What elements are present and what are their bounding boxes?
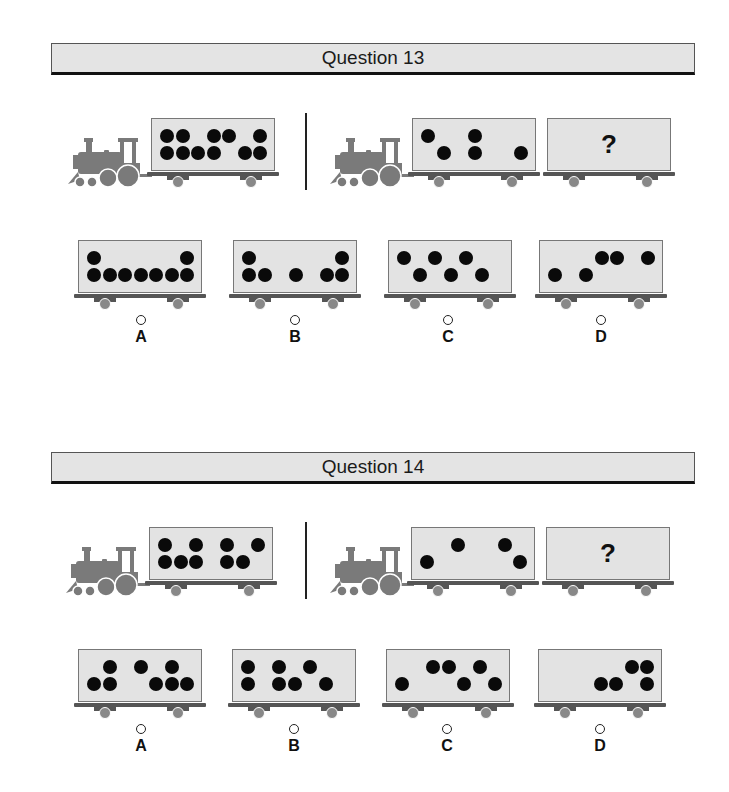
radio-button[interactable]: [290, 315, 300, 325]
option-label: A: [131, 328, 151, 346]
dot: [335, 251, 349, 265]
option-car-a[interactable]: [74, 649, 204, 715]
dot: [272, 660, 286, 674]
car-body: [149, 527, 273, 580]
option-d[interactable]: D: [591, 315, 611, 346]
dot: [165, 268, 179, 282]
radio-button[interactable]: [289, 724, 299, 734]
wheel-icon: [506, 176, 518, 188]
dot: [395, 677, 409, 691]
dot: [158, 555, 172, 569]
dot: [289, 268, 303, 282]
question-mark: ?: [546, 527, 670, 580]
dot: [160, 129, 174, 143]
dot: [548, 268, 562, 282]
dot: [180, 268, 194, 282]
example-car-2: [408, 118, 538, 184]
locomotive-icon: [330, 130, 414, 190]
dot: [488, 677, 502, 691]
dot: [242, 251, 256, 265]
wheel-icon: [568, 176, 580, 188]
radio-button[interactable]: [136, 315, 146, 325]
option-car-c[interactable]: [382, 649, 512, 715]
dot: [459, 251, 473, 265]
option-label: D: [590, 737, 610, 755]
dot: [420, 555, 434, 569]
dot: [468, 129, 482, 143]
unknown-car: ?: [543, 118, 673, 184]
dot: [595, 251, 609, 265]
radio-button[interactable]: [595, 724, 605, 734]
dot: [498, 538, 512, 552]
option-car-d[interactable]: [535, 240, 665, 306]
dot: [207, 146, 221, 160]
car-body: [233, 240, 357, 293]
dot: [176, 129, 190, 143]
locomotive-icon: [66, 539, 150, 599]
dot: [609, 677, 623, 691]
radio-button[interactable]: [136, 724, 146, 734]
option-d[interactable]: D: [590, 724, 610, 755]
wheel-icon: [567, 585, 579, 597]
dot: [207, 129, 221, 143]
wheel-icon: [640, 585, 652, 597]
option-c[interactable]: C: [437, 724, 457, 755]
dot: [165, 677, 179, 691]
dot: [134, 268, 148, 282]
dot: [103, 268, 117, 282]
dot: [220, 538, 234, 552]
dot: [241, 677, 255, 691]
wheel-icon: [172, 176, 184, 188]
option-car-d[interactable]: [534, 649, 664, 715]
wheel-icon: [253, 707, 265, 719]
option-car-b[interactable]: [228, 649, 358, 715]
example-car-1: [145, 527, 275, 593]
dot: [442, 660, 456, 674]
dot: [253, 146, 267, 160]
dot: [180, 677, 194, 691]
option-label: D: [591, 328, 611, 346]
dot: [413, 268, 427, 282]
radio-button[interactable]: [442, 724, 452, 734]
dot: [87, 268, 101, 282]
dot: [451, 538, 465, 552]
radio-button[interactable]: [596, 315, 606, 325]
wheel-icon: [172, 707, 184, 719]
dot: [303, 660, 317, 674]
dot: [610, 251, 624, 265]
dot: [103, 660, 117, 674]
option-car-c[interactable]: [384, 240, 514, 306]
divider: [305, 522, 307, 599]
dot: [426, 660, 440, 674]
dot: [641, 251, 655, 265]
unknown-car: ?: [542, 527, 672, 593]
radio-button[interactable]: [443, 315, 453, 325]
wheel-icon: [632, 707, 644, 719]
dot: [189, 555, 203, 569]
option-car-b[interactable]: [229, 240, 359, 306]
dot: [421, 129, 435, 143]
dot: [594, 677, 608, 691]
option-car-a[interactable]: [74, 240, 204, 306]
wheel-icon: [409, 298, 421, 310]
dot: [428, 251, 442, 265]
option-label: A: [131, 737, 151, 755]
option-b[interactable]: B: [285, 315, 305, 346]
dot: [165, 660, 179, 674]
car-body: [232, 649, 356, 702]
wheel-icon: [254, 298, 266, 310]
dot: [238, 146, 252, 160]
dot: [158, 538, 172, 552]
wheel-icon: [482, 298, 494, 310]
car-body: [539, 240, 663, 293]
dot: [220, 555, 234, 569]
dot: [514, 146, 528, 160]
option-a[interactable]: A: [131, 724, 151, 755]
option-a[interactable]: A: [131, 315, 151, 346]
wheel-icon: [641, 176, 653, 188]
question-mark: ?: [547, 118, 671, 171]
dot: [134, 660, 148, 674]
option-c[interactable]: C: [438, 315, 458, 346]
dot: [253, 129, 267, 143]
option-b[interactable]: B: [284, 724, 304, 755]
